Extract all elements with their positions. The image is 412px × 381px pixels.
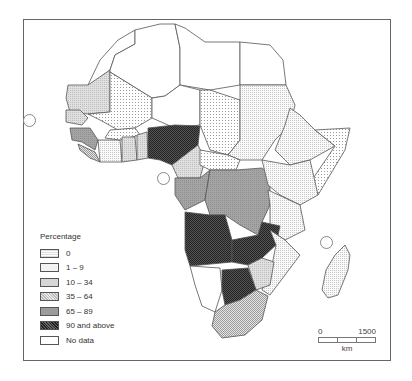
legend-label: 90 and above [66,321,115,330]
legend: Percentage 0 1 – 9 10 – 34 35 – 64 65 – … [40,232,115,348]
legend-title: Percentage [40,232,115,241]
punch-hole-1 [23,114,36,127]
region-chad [200,90,240,155]
swatch-5 [40,321,59,330]
legend-item-1: 1 – 9 [40,261,115,276]
region-ghana [122,137,137,162]
legend-item-2: 10 – 34 [40,275,115,290]
swatch-6 [40,336,59,345]
legend-label: 0 [66,249,70,258]
legend-label: 65 – 89 [66,307,93,316]
scale-end: 1500 [358,327,376,336]
scale-bar: 0 1500 km [318,327,376,353]
scale-unit: km [318,344,376,353]
legend-item-0: 0 [40,246,115,261]
legend-label: 1 – 9 [66,263,84,272]
swatch-4 [40,307,59,316]
region-mauritania [66,70,110,114]
region-madagascar [322,245,350,298]
swatch-3 [40,292,59,301]
region-angola [185,212,232,266]
scale-ruler [318,337,376,343]
punch-hole-3 [320,236,333,249]
swatch-1 [40,263,59,272]
swatch-2 [40,278,59,287]
punch-hole-2 [157,172,170,185]
legend-item-4: 65 – 89 [40,304,115,319]
legend-label: No data [66,336,94,345]
legend-label: 35 – 64 [66,292,93,301]
swatch-0 [40,249,59,258]
region-libya [175,24,240,90]
scale-start: 0 [318,327,322,336]
region-namibia [190,266,222,312]
region-ivory-coast [98,140,122,162]
region-benin [137,132,148,160]
legend-item-5: 90 and above [40,319,115,334]
legend-item-6: No data [40,333,115,348]
region-egypt [240,42,286,85]
legend-item-3: 35 – 64 [40,290,115,305]
legend-label: 10 – 34 [66,278,93,287]
